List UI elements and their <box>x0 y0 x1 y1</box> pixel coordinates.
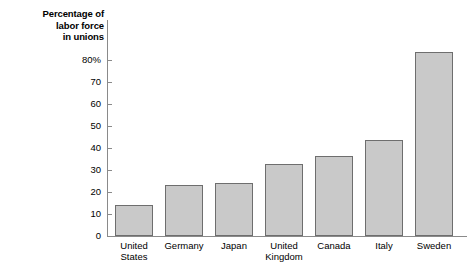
y-tick-label-60: 60 <box>35 99 101 109</box>
x-label-united-states-line-2: States <box>94 251 174 262</box>
y-axis-title-line-3: in unions <box>16 31 104 43</box>
y-tick-label-20: 20 <box>35 187 101 197</box>
bar-chart: Percentage of labor force in unions 80% … <box>0 0 474 269</box>
x-axis-labels: United States Germany Japan United Kingd… <box>107 240 467 268</box>
y-axis-title: Percentage of labor force in unions <box>16 8 104 43</box>
y-tick-label-50: 50 <box>35 121 101 131</box>
y-tick-label-0: 0 <box>35 231 101 241</box>
y-tick-label-30: 30 <box>35 165 101 175</box>
x-label-sweden-line-1: Sweden <box>394 240 474 251</box>
bar-canada <box>315 156 353 236</box>
y-axis-title-line-1: Percentage of <box>16 8 104 20</box>
y-tick-label-70: 70 <box>35 77 101 87</box>
plot-area <box>107 20 467 236</box>
bar-germany <box>165 185 203 236</box>
bar-italy <box>365 140 403 236</box>
x-label-sweden: Sweden <box>394 240 474 251</box>
y-tick-label-80: 80% <box>35 55 101 65</box>
bar-sweden <box>415 52 453 236</box>
y-tick-label-10: 10 <box>35 209 101 219</box>
y-tick-label-40: 40 <box>35 143 101 153</box>
bar-series <box>107 20 467 236</box>
x-axis-line <box>107 236 467 237</box>
y-axis-title-line-2: labor force <box>16 20 104 32</box>
x-label-united-kingdom-line-2: Kingdom <box>244 251 324 262</box>
bar-united-kingdom <box>265 164 303 236</box>
bar-united-states <box>115 205 153 236</box>
bar-japan <box>215 183 253 236</box>
